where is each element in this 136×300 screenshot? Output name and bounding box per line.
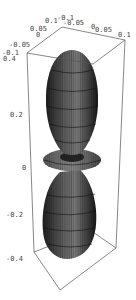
orbital-3d-plot: 0.4 0.2 0 -0.2 -0.4 -0.1 -0.05 0 0.05 0.… bbox=[0, 0, 136, 300]
x-tick-neg0.1: -0.1 bbox=[2, 49, 19, 57]
x-tick-0.05: 0.05 bbox=[30, 25, 47, 33]
y-tick-0.1: 0.1 bbox=[118, 31, 131, 39]
z-tick-0.2: 0.2 bbox=[10, 111, 23, 119]
x-tick-neg0.05: -0.05 bbox=[9, 41, 30, 49]
x-tick-0.1: 0.1 bbox=[45, 17, 58, 25]
z-axis-ticks: 0.4 0.2 0 -0.2 -0.4 bbox=[3, 55, 26, 263]
upper-lobe bbox=[46, 50, 98, 155]
y-tick-0.05: 0.05 bbox=[95, 26, 112, 34]
lower-lobe bbox=[43, 170, 97, 259]
z-tick-0: 0 bbox=[22, 164, 26, 172]
z-tick-neg0.2: -0.2 bbox=[6, 211, 23, 219]
y-tick-neg0.05: -0.05 bbox=[63, 19, 84, 27]
y-axis-ticks: -0.1 -0.05 0 0.05 0.1 bbox=[57, 14, 131, 39]
z-tick-neg0.4: -0.4 bbox=[6, 255, 23, 263]
